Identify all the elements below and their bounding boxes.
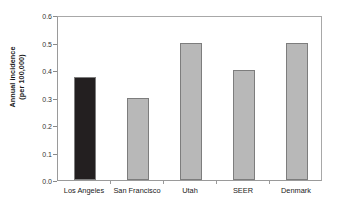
x-axis-tick-labels: Los AngelesSan FranciscoUtahSEERDenmark [57, 185, 322, 201]
bar [180, 43, 202, 181]
y-axis-tick-label: 0.3 [26, 95, 52, 102]
y-axis-tick-label: 0.0 [26, 178, 52, 185]
bar-chart: Annual incidence (per 100,000) 0.00.10.2… [0, 0, 341, 209]
y-axis-tick-label: 0.4 [26, 68, 52, 75]
x-axis-tick-mark [269, 181, 270, 184]
bar [233, 70, 255, 180]
plot-area [57, 16, 322, 181]
y-axis-title-line-1: Annual incidence [8, 46, 17, 107]
x-axis-tick-label: Denmark [281, 185, 311, 197]
y-axis-title-line-2: (per 100,000) [17, 54, 26, 99]
y-axis-tick-label: 0.2 [26, 123, 52, 130]
bars-layer [58, 17, 321, 180]
x-axis-tick-label: Los Angeles [64, 185, 104, 197]
y-axis-tick-label: 0.1 [26, 150, 52, 157]
x-axis-tick-label: Utah [182, 185, 198, 197]
bar [127, 98, 149, 181]
y-axis-tick-labels: 0.00.10.20.30.40.50.6 [26, 16, 52, 181]
x-axis-tick-label: SEER [233, 185, 253, 197]
bar [286, 43, 308, 181]
y-axis-tick-label: 0.6 [26, 13, 52, 20]
y-axis-tick-label: 0.5 [26, 40, 52, 47]
x-axis-tick-mark [216, 181, 217, 184]
x-axis-tick-label: San Francisco [113, 185, 160, 197]
x-axis-tick-mark [163, 181, 164, 184]
bar [74, 77, 96, 180]
x-axis-tick-mark [110, 181, 111, 184]
